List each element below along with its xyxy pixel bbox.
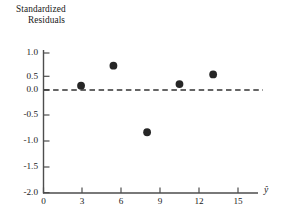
x-tick-label: 15 xyxy=(228,197,248,206)
data-point xyxy=(176,80,184,88)
data-point xyxy=(143,128,151,136)
x-axis-ticks xyxy=(44,188,239,194)
y-tick-label: 0.0 xyxy=(4,85,38,94)
axis-lines xyxy=(43,50,258,194)
plot-canvas xyxy=(0,0,284,214)
x-tick-label: 3 xyxy=(72,197,92,206)
y-tick-label: 1.0 xyxy=(4,48,38,57)
y-tick-label: 0.5 xyxy=(4,72,38,81)
y-tick-label: -1.0 xyxy=(2,136,38,145)
data-point xyxy=(110,62,118,70)
y-axis-ticks xyxy=(44,53,50,193)
x-tick-label: 9 xyxy=(150,197,170,206)
x-tick-label: 12 xyxy=(189,197,209,206)
data-point xyxy=(209,70,217,78)
x-tick-label: 6 xyxy=(111,197,131,206)
data-point xyxy=(77,82,85,90)
residual-plot-figure: Standardized Residuals 1.0 0.5 0.0 xyxy=(0,0,284,214)
data-points xyxy=(77,62,217,136)
x-axis-label: ŷ xyxy=(264,185,268,195)
y-tick-label: -1.5 xyxy=(2,162,38,171)
y-tick-label: -0.5 xyxy=(2,110,38,119)
x-tick-label: 0 xyxy=(34,197,54,206)
